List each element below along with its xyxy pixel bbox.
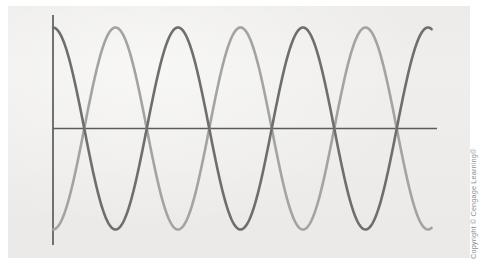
wave-plot — [0, 0, 487, 265]
copyright-text: Copyright © Cengage Learning® — [469, 149, 478, 259]
copyright-credit: Copyright © Cengage Learning® — [470, 109, 486, 259]
figure-container: Copyright © Cengage Learning® — [0, 0, 487, 265]
